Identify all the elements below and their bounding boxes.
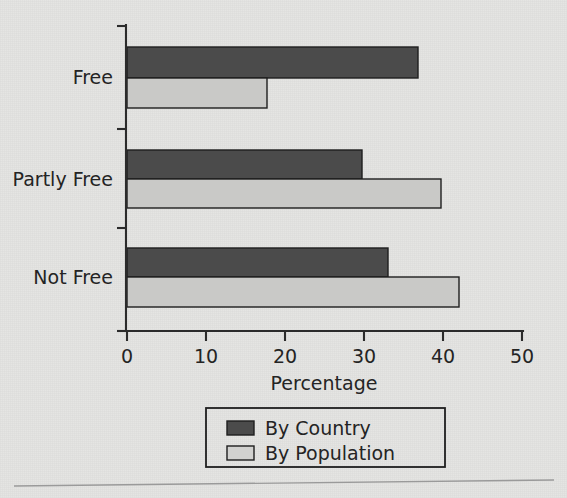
legend-label-by-country[interactable]: By Country — [265, 417, 371, 439]
y-category-label-partly-free: Partly Free — [13, 168, 113, 190]
bar-not-free-by-population[interactable] — [127, 277, 459, 307]
bar-free-by-population[interactable] — [127, 78, 267, 108]
bar-partly-free-by-population[interactable] — [127, 179, 441, 208]
x-tick-label-40: 40 — [431, 345, 455, 367]
legend-swatch-by-population — [227, 446, 254, 460]
bar-not-free-by-country[interactable] — [127, 248, 388, 277]
x-tick-label-50: 50 — [510, 345, 534, 367]
bar-group-not-free — [127, 248, 459, 307]
x-tick-label-20: 20 — [273, 345, 297, 367]
y-category-label-not-free: Not Free — [33, 266, 113, 288]
footer-divider-rule — [14, 480, 554, 486]
bar-free-by-country[interactable] — [127, 47, 418, 78]
x-tick-label-0: 0 — [121, 345, 133, 367]
legend-label-by-population[interactable]: By Population — [265, 442, 395, 464]
legend: By Country By Population — [206, 408, 445, 467]
bar-chart: 0 10 20 30 40 50 Free Partly Free Not Fr… — [0, 0, 567, 498]
x-tick-label-10: 10 — [194, 345, 218, 367]
bar-partly-free-by-country[interactable] — [127, 150, 362, 179]
y-category-label-free: Free — [73, 66, 113, 88]
bar-group-free — [127, 47, 418, 108]
legend-swatch-by-country — [227, 421, 254, 435]
x-axis-title: Percentage — [271, 372, 378, 394]
x-tick-label-30: 30 — [352, 345, 376, 367]
figure-page: 0 10 20 30 40 50 Free Partly Free Not Fr… — [0, 0, 567, 498]
bar-group-partly-free — [127, 150, 441, 208]
